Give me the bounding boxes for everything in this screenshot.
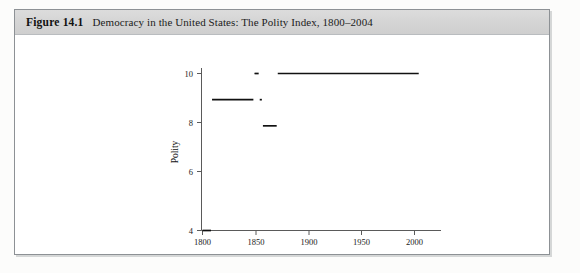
polity-index-chart: 10 8 6 4 1800 1850 1900 1950 2000 Year P… bbox=[15, 35, 549, 255]
x-axis-ticks bbox=[203, 231, 415, 236]
figure-number-label: Figure 14.1 bbox=[26, 16, 84, 28]
x-axis-title: Year bbox=[304, 254, 322, 255]
y-tick-label-10: 10 bbox=[185, 69, 194, 79]
x-tick-label-1800: 1800 bbox=[194, 237, 211, 247]
x-tick-label-2000: 2000 bbox=[406, 237, 423, 247]
x-tick-label-1850: 1850 bbox=[248, 237, 265, 247]
x-tick-label-1900: 1900 bbox=[301, 237, 318, 247]
y-axis-title: Polity bbox=[170, 140, 180, 163]
y-tick-label-4: 4 bbox=[189, 226, 194, 236]
data-series-polity-index bbox=[203, 74, 419, 231]
figure-caption: Democracy in the United States: The Poli… bbox=[93, 16, 373, 28]
y-tick-label-6: 6 bbox=[189, 167, 193, 177]
figure-header-band: Figure 14.1 Democracy in the United Stat… bbox=[15, 10, 549, 35]
x-tick-label-1950: 1950 bbox=[353, 237, 370, 247]
plot-area: 10 8 6 4 1800 1850 1900 1950 2000 Year P… bbox=[15, 35, 549, 254]
figure-container: Figure 14.1 Democracy in the United Stat… bbox=[14, 9, 550, 255]
y-axis-ticks bbox=[197, 74, 202, 231]
y-tick-label-8: 8 bbox=[189, 118, 193, 128]
